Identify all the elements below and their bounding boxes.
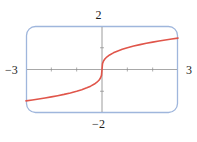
y-max-label: 2 xyxy=(0,9,197,21)
x-max-label: 3 xyxy=(186,64,192,76)
y-min-label: −2 xyxy=(0,118,197,130)
plot-figure: 2 −2 −3 3 xyxy=(0,0,197,142)
x-min-label: −3 xyxy=(5,64,18,76)
